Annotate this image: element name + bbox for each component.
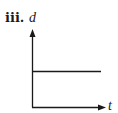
chart-plot bbox=[0, 0, 118, 113]
y-axis-arrow-icon bbox=[30, 29, 36, 37]
x-axis-arrow-icon bbox=[98, 105, 106, 111]
